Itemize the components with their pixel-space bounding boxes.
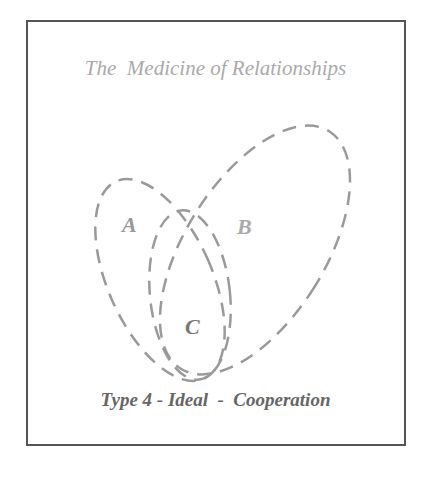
ellipse-b bbox=[121, 94, 388, 406]
label-b: B bbox=[236, 214, 252, 239]
ellipse-a bbox=[69, 160, 252, 400]
label-a: A bbox=[120, 212, 137, 237]
ellipse-c bbox=[141, 206, 238, 383]
diagram-caption: Type 4 - Ideal - Cooperation bbox=[0, 389, 431, 411]
label-c: C bbox=[185, 314, 200, 339]
